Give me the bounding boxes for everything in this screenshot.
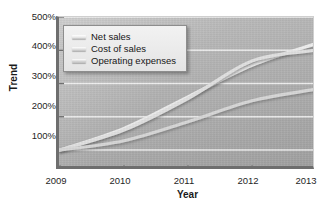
legend-swatch-net-sales — [72, 35, 86, 39]
x-tick-label-2009: 2009 — [36, 175, 76, 186]
legend-item-net-sales[interactable]: Net sales — [69, 31, 181, 42]
legend-label-net-sales: Net sales — [91, 32, 131, 42]
x-tick-label-2010: 2010 — [100, 175, 140, 186]
line-chart: Trend 500% 400% 300% 200% 100% Net sal — [0, 0, 327, 203]
chart-legend: Net sales Cost of sales Operating expens… — [63, 25, 187, 72]
legend-label-operating-expenses: Operating expenses — [91, 56, 176, 66]
legend-swatch-operating-expenses — [72, 59, 86, 63]
legend-swatch-cost-of-sales — [72, 47, 86, 51]
y-tick-label-400: 400% — [10, 41, 56, 50]
x-axis-tick-marks — [60, 165, 314, 169]
legend-label-cost-of-sales: Cost of sales — [91, 44, 146, 54]
y-tick-label-300: 300% — [10, 71, 56, 80]
y-tick-label-500: 500% — [10, 12, 56, 21]
legend-item-operating-expenses[interactable]: Operating expenses — [69, 55, 181, 66]
x-tick-label-2012: 2012 — [228, 175, 268, 186]
x-tick-label-2013: 2013 — [286, 175, 326, 186]
x-axis-title: Year — [55, 189, 320, 200]
x-tick-label-2011: 2011 — [164, 175, 204, 186]
y-tick-label-100: 100% — [10, 131, 56, 140]
legend-item-cost-of-sales[interactable]: Cost of sales — [69, 43, 181, 54]
y-tick-label-200: 200% — [10, 101, 56, 110]
